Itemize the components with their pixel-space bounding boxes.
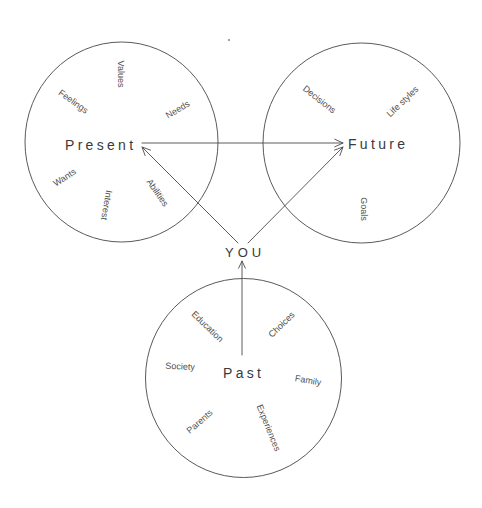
past-item-choices: Choices: [266, 309, 297, 339]
past-item-society: Society: [165, 361, 195, 372]
present-item-needs: Needs: [164, 98, 192, 120]
past-circle-group: Past Education Choices Society Family Pa…: [146, 279, 342, 478]
speck-mark: [228, 39, 230, 41]
arrow-past-to-you: [239, 261, 246, 355]
present-circle-group: Present Values Feelings Needs Wants Inte…: [25, 42, 218, 242]
future-item-life-styles: Life styles: [385, 84, 421, 119]
future-item-goals: Goals: [359, 197, 369, 221]
present-item-abilities: Abilities: [145, 177, 171, 209]
future-title: Future: [348, 136, 408, 152]
arrow-you-to-future: [248, 147, 343, 243]
past-item-experiences: Experiences: [255, 403, 283, 453]
present-item-interest: Interest: [99, 189, 114, 221]
arrow-line: [248, 147, 343, 243]
past-item-family: Family: [294, 373, 322, 388]
arrow-present-to-future: [142, 139, 343, 147]
past-item-education: Education: [190, 309, 226, 344]
present-title: Present: [65, 137, 136, 153]
present-item-feelings: Feelings: [57, 87, 91, 115]
present-item-wants: Wants: [51, 166, 78, 188]
past-item-parents: Parents: [185, 407, 215, 435]
future-item-decisions: Decisions: [301, 84, 338, 116]
past-title: Past: [223, 365, 264, 381]
life-time-diagram: Present Values Feelings Needs Wants Inte…: [0, 0, 482, 508]
you-label: YOU: [225, 245, 265, 260]
present-item-values: Values: [116, 61, 126, 88]
